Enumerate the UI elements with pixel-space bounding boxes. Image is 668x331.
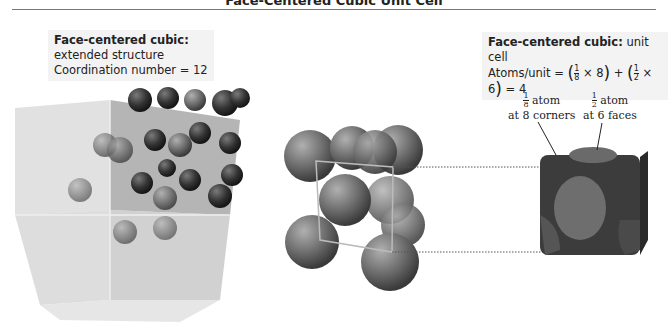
cut-unit-cell bbox=[538, 122, 648, 255]
space-filling-unit-cell bbox=[284, 125, 425, 291]
fcc-illustration bbox=[0, 0, 668, 331]
extended-lattice bbox=[15, 87, 250, 322]
